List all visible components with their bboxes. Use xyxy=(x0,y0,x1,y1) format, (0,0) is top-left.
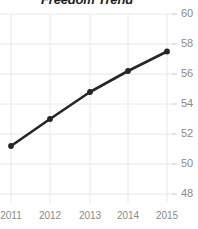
data-point-marker xyxy=(47,116,53,122)
x-axis-tick-label: 2011 xyxy=(0,210,22,221)
x-axis-tick-label: 2013 xyxy=(79,210,101,221)
x-axis-tick-label: 2012 xyxy=(39,210,61,221)
y-axis-tick-label: 48 xyxy=(181,187,193,199)
horizontal-gridlines xyxy=(0,14,174,194)
y-axis-tick-label: 60 xyxy=(181,7,193,19)
y-axis-tick-label: 52 xyxy=(181,127,193,139)
axis-tick-marks xyxy=(172,14,177,194)
data-point-marker xyxy=(125,68,131,74)
x-axis-tick-label: 2014 xyxy=(117,210,139,221)
data-point-marker xyxy=(164,49,170,55)
series-line-freedom-trend xyxy=(11,52,167,147)
line-chart: Freedom Trend 48505254565860 20112012201… xyxy=(0,0,198,229)
y-axis-tick-label: 58 xyxy=(181,37,193,49)
vertical-gridlines xyxy=(11,14,167,203)
data-point-marker xyxy=(87,89,93,95)
y-axis-tick-label: 54 xyxy=(181,97,193,109)
x-axis-tick-label: 2015 xyxy=(156,210,178,221)
y-axis-tick-label: 56 xyxy=(181,67,193,79)
y-axis-tick-label: 50 xyxy=(181,157,193,169)
plot-area xyxy=(0,0,198,229)
data-point-marker xyxy=(8,143,14,149)
